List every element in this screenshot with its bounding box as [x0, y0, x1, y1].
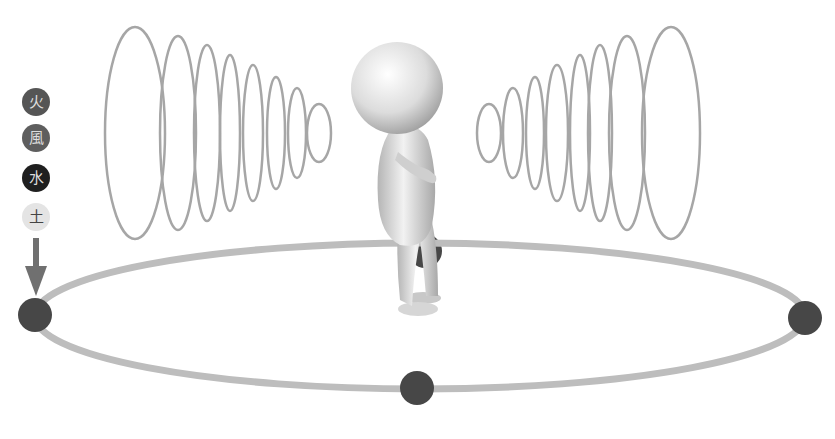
legend-fire: 火	[22, 88, 50, 116]
wave-ring-left-7	[307, 104, 331, 162]
legend-water-label: 水	[29, 171, 44, 186]
legend-earth: 土	[22, 203, 50, 231]
wave-ring-left-5	[267, 77, 285, 189]
orbit-dot-bottom	[400, 371, 434, 405]
wave-ring-right-7	[642, 27, 700, 239]
down-arrow-icon	[25, 238, 47, 296]
sound-waves-right	[477, 27, 700, 239]
orbit-dot-left	[18, 298, 52, 332]
legend-wind: 風	[22, 124, 50, 152]
wave-ring-left-4	[243, 65, 263, 201]
wave-ring-right-3	[546, 65, 568, 201]
figure-foot-front	[398, 302, 438, 316]
legend-wind-label: 風	[29, 131, 44, 146]
stick-figure	[351, 42, 443, 316]
wave-ring-right-2	[526, 77, 544, 189]
wave-ring-left-6	[288, 88, 306, 178]
wave-ring-left-2	[194, 45, 220, 221]
legend-earth-label: 土	[29, 210, 44, 225]
sound-waves-left	[105, 27, 331, 239]
legend-water: 水	[22, 164, 50, 192]
wave-ring-right-6	[609, 36, 645, 230]
figure-body	[378, 126, 436, 246]
wave-ring-left-3	[220, 55, 240, 211]
diagram-canvas	[0, 0, 835, 439]
figure-head	[351, 42, 443, 134]
legend-fire-label: 火	[29, 95, 44, 110]
wave-ring-right-1	[503, 88, 523, 178]
wave-ring-left-0	[105, 27, 165, 239]
orbit-dot-right	[788, 301, 822, 335]
wave-ring-right-0	[477, 104, 501, 162]
